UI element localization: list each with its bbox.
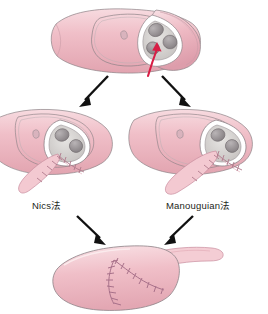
caption-manouguian: Manouguian法 — [166, 198, 231, 212]
panel-nics-technique — [0, 104, 128, 196]
caption-nics: Nics法 — [32, 198, 61, 212]
aorta-body — [53, 246, 180, 311]
panel-manouguian-technique — [140, 104, 268, 196]
illustration-canvas: Nics法 — [0, 0, 268, 314]
panel-aortic-root-before — [52, 2, 222, 80]
arrow-top-to-left — [79, 76, 108, 107]
arrow-top-to-right — [162, 76, 191, 107]
panel-aortic-root-after — [52, 240, 232, 314]
